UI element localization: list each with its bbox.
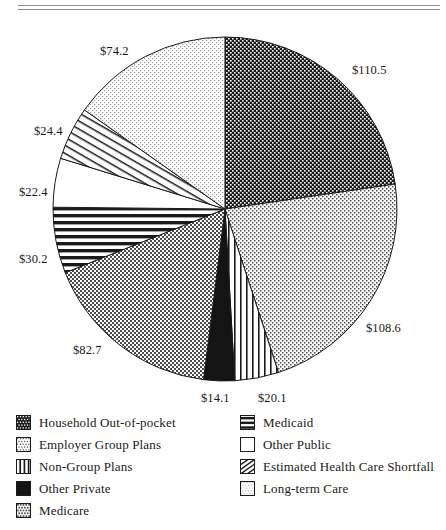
top-rule-lower xyxy=(18,9,440,10)
top-rule-upper xyxy=(18,5,440,6)
pie-value-label: $110.5 xyxy=(352,63,387,78)
pie-value-label: $20.1 xyxy=(258,391,287,406)
pie-value-label: $24.4 xyxy=(34,124,63,139)
legend-item[interactable]: Employer Group Plans xyxy=(16,434,176,455)
legend-column-right: MedicaidOther PublicEstimated Health Car… xyxy=(240,412,434,500)
legend-label: Non-Group Plans xyxy=(39,459,133,475)
chart-legend: Household Out-of-pocketEmployer Group Pl… xyxy=(0,412,446,530)
legend-swatch-icon xyxy=(240,459,255,474)
legend-item[interactable]: Medicare xyxy=(16,500,176,521)
legend-item[interactable]: Other Private xyxy=(16,478,176,499)
legend-swatch-icon xyxy=(16,503,31,518)
legend-swatch-icon xyxy=(240,415,255,430)
legend-item[interactable]: Household Out-of-pocket xyxy=(16,412,176,433)
legend-swatch-icon xyxy=(240,437,255,452)
legend-swatch-icon xyxy=(16,481,31,496)
pie-value-label: $108.6 xyxy=(366,321,401,336)
legend-swatch-icon xyxy=(16,415,31,430)
legend-label: Other Private xyxy=(39,481,111,497)
chart-page: $110.5$108.6$20.1$14.1$82.7$30.2$22.4$24… xyxy=(0,0,446,530)
pie-value-label: $74.2 xyxy=(100,44,129,59)
legend-item[interactable]: Long-term Care xyxy=(240,478,434,499)
pie-chart-area: $110.5$108.6$20.1$14.1$82.7$30.2$22.4$24… xyxy=(0,18,446,406)
legend-item[interactable]: Medicaid xyxy=(240,412,434,433)
legend-item[interactable]: Estimated Health Care Shortfall xyxy=(240,456,434,477)
legend-item[interactable]: Other Public xyxy=(240,434,434,455)
legend-swatch-icon xyxy=(16,437,31,452)
pie-slices-group xyxy=(53,37,397,381)
pie-value-label: $14.1 xyxy=(201,391,230,406)
legend-item[interactable]: Non-Group Plans xyxy=(16,456,176,477)
legend-label: Other Public xyxy=(263,437,331,453)
legend-label: Medicare xyxy=(39,503,89,519)
pie-value-label: $30.2 xyxy=(19,252,48,267)
legend-column-left: Household Out-of-pocketEmployer Group Pl… xyxy=(16,412,176,522)
pie-value-label: $22.4 xyxy=(19,185,48,200)
legend-swatch-icon xyxy=(16,459,31,474)
legend-label: Medicaid xyxy=(263,415,313,431)
legend-swatch-icon xyxy=(240,481,255,496)
legend-label: Long-term Care xyxy=(263,481,348,497)
pie-value-label: $82.7 xyxy=(73,343,102,358)
legend-label: Employer Group Plans xyxy=(39,437,161,453)
legend-label: Estimated Health Care Shortfall xyxy=(263,459,434,475)
legend-label: Household Out-of-pocket xyxy=(39,415,176,431)
